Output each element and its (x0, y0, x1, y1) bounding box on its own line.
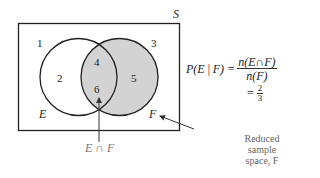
note-line-3: space, F (232, 155, 292, 166)
reduced-sample-space-note: Reduced sample space, F (232, 133, 292, 166)
result-fraction: 2 3 (257, 84, 264, 103)
note-line-1: Reduced (232, 133, 292, 144)
region-2-label: 2 (57, 72, 63, 84)
region-3-label: 3 (151, 37, 157, 49)
formula-result: = 2 3 (247, 84, 300, 103)
region-5-label: 5 (131, 72, 137, 84)
formula-denominator: n(F) (246, 69, 267, 82)
result-equals: = (247, 86, 254, 101)
formula-lhs: P(E | F) = (186, 62, 235, 77)
region-4-label: 4 (94, 56, 100, 68)
result-denominator: 3 (258, 94, 263, 103)
region-6-label: 6 (94, 83, 100, 95)
region-1-label: 1 (37, 37, 43, 49)
note-line-2: sample (232, 144, 292, 155)
conditional-probability-formula: P(E | F) = n(E∩F) n(F) = 2 3 (186, 56, 300, 103)
set-f-label: F (148, 107, 157, 121)
reduced-space-pointer-arrow (160, 116, 194, 129)
set-e-label: E (38, 107, 47, 121)
universe-label: S (173, 7, 179, 21)
intersection-label: E ∩ F (84, 141, 115, 155)
formula-fraction: n(E∩F) n(F) (237, 56, 276, 82)
formula-numerator: n(E∩F) (237, 56, 276, 69)
